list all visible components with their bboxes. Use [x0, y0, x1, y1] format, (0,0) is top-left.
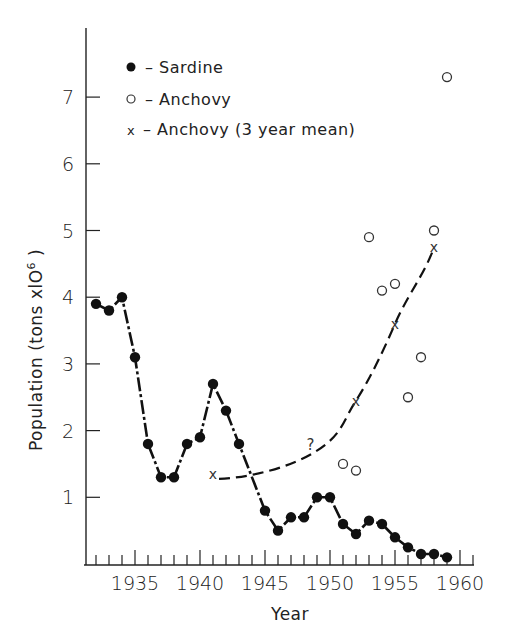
anchovy-point-icon: [339, 459, 348, 468]
sardine-point-icon: [104, 305, 114, 315]
sardine-point-icon: [234, 439, 244, 449]
sardine-point-icon: [429, 549, 439, 559]
anchovy-mean-point-x-icon: x: [352, 393, 360, 409]
sardine-point-icon: [260, 505, 270, 515]
legend-mean-marker-icon: x: [127, 123, 135, 138]
sardine-line: [96, 297, 447, 557]
anchovy-mean-curve: [219, 247, 434, 479]
x-tick-label: 1940: [176, 572, 224, 594]
anchovy-point-icon: [443, 73, 452, 82]
sardine-point-icon: [351, 529, 361, 539]
anchovy-mean-point-x-icon: x: [391, 316, 399, 332]
x-tick-labels: 193519401945195019551960: [111, 572, 484, 594]
sardine-point-icon: [364, 515, 374, 525]
sardine-point-icon: [442, 552, 452, 562]
sardine-series: [91, 292, 452, 563]
anchovy-point-icon: [404, 393, 413, 402]
anchovy-point-icon: [417, 353, 426, 362]
anchovy-point-icon: [352, 466, 361, 475]
anchovy-point-icon: [430, 226, 439, 235]
axes: [84, 28, 474, 565]
sardine-point-icon: [208, 379, 218, 389]
legend-sardine-marker-icon: [127, 63, 136, 72]
sardine-point-icon: [338, 519, 348, 529]
x-axis-title: Year: [270, 604, 309, 624]
legend-mean-label: – Anchovy (3 year mean): [143, 120, 355, 139]
sardine-point-icon: [117, 292, 127, 302]
question-mark-annotation: ?: [307, 436, 315, 454]
sardine-point-icon: [221, 405, 231, 415]
x-tick-label: 1945: [241, 572, 289, 594]
legend-anchovy-label: – Anchovy: [145, 90, 231, 109]
x-tick-label: 1950: [306, 572, 354, 594]
legend-anchovy-marker-icon: [127, 95, 135, 103]
y-tick-label: 7: [62, 86, 74, 108]
sardine-point-icon: [195, 432, 205, 442]
sardine-point-icon: [143, 439, 153, 449]
sardine-point-icon: [286, 512, 296, 522]
sardine-point-icon: [169, 472, 179, 482]
y-tick-label: 5: [62, 220, 74, 242]
legend-sardine-label: – Sardine: [145, 58, 223, 77]
anchovy-mean-point-x-icon: x: [209, 466, 217, 482]
y-tick-label: 4: [62, 286, 74, 308]
sardine-point-icon: [91, 299, 101, 309]
anchovy-point-icon: [365, 233, 374, 242]
y-tick-label: 1: [62, 486, 74, 508]
population-chart: 1234567 193519401945195019551960 xxxx ? …: [0, 0, 505, 644]
legend: – Sardine – Anchovy x – Anchovy (3 year …: [127, 58, 356, 139]
sardine-point-icon: [130, 352, 140, 362]
sardine-point-icon: [416, 549, 426, 559]
y-tick-labels: 1234567: [62, 86, 74, 508]
sardine-point-icon: [312, 492, 322, 502]
sardine-point-icon: [299, 512, 309, 522]
sardine-point-icon: [377, 519, 387, 529]
anchovy-point-icon: [378, 286, 387, 295]
x-tick-label: 1955: [371, 572, 419, 594]
anchovy-point-icon: [391, 279, 400, 288]
anchovy-series: [339, 73, 452, 476]
anchovy-mean-point-x-icon: x: [430, 239, 438, 255]
sardine-point-icon: [403, 542, 413, 552]
sardine-point-icon: [273, 525, 283, 535]
y-tick-label: 3: [62, 353, 74, 375]
annotations: ?: [307, 436, 315, 454]
y-tick-label: 6: [62, 153, 74, 175]
sardine-point-icon: [182, 439, 192, 449]
y-axis-title: Population (tons xlO6 ): [25, 249, 46, 451]
x-tick-label: 1935: [111, 572, 159, 594]
y-tick-label: 2: [62, 420, 74, 442]
x-tick-label: 1960: [436, 572, 484, 594]
sardine-point-icon: [156, 472, 166, 482]
sardine-point-icon: [390, 532, 400, 542]
sardine-point-icon: [325, 492, 335, 502]
